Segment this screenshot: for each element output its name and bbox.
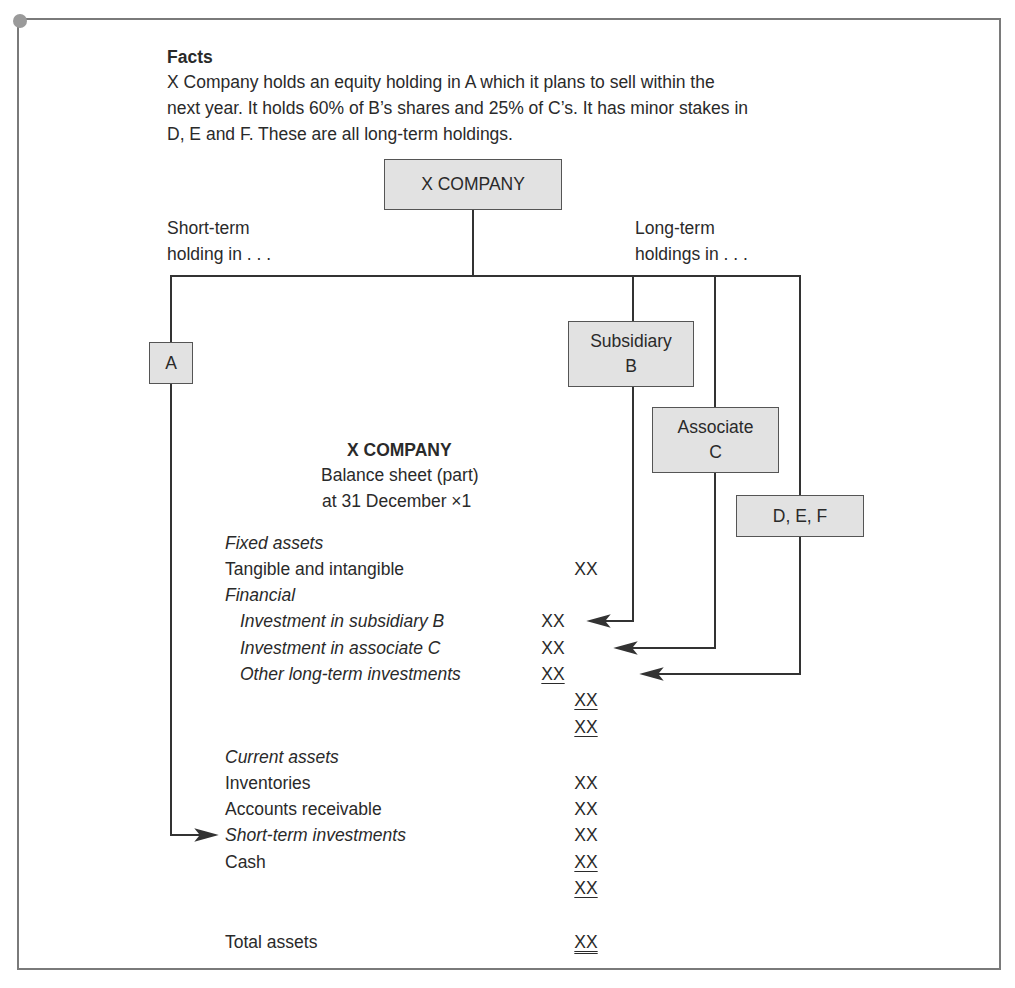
subsidiary-investment-value: XX	[540, 609, 566, 634]
subsidiary-investment-label: Investment in subsidiary B	[240, 609, 444, 634]
arrow-layer	[0, 0, 1015, 988]
subsidiary-b-node: Subsidiary B	[568, 321, 694, 387]
tangible-value: XX	[573, 557, 599, 582]
receivable-label: Accounts receivable	[225, 797, 382, 822]
associate-c-label-line-2: C	[709, 440, 722, 465]
fixed-total-value: XX	[573, 715, 599, 740]
inventories-label: Inventories	[225, 771, 311, 796]
receivable-value: XX	[573, 797, 599, 822]
cash-label: Cash	[225, 850, 266, 875]
fixed-assets-heading: Fixed assets	[225, 531, 323, 556]
associate-investment-value: XX	[540, 636, 566, 661]
financial-total-value: XX	[573, 688, 599, 713]
cash-value: XX	[573, 850, 599, 875]
other-investments-label: Other long-term investments	[240, 662, 461, 687]
a-node-label: A	[165, 351, 177, 376]
tangible-label: Tangible and intangible	[225, 557, 404, 582]
balance-sheet-title: X COMPANY	[347, 438, 452, 463]
total-assets-value: XX	[573, 930, 599, 955]
current-total-value: XX	[573, 876, 599, 901]
associate-investment-label: Investment in associate C	[240, 636, 440, 661]
other-investments-value: XX	[540, 662, 566, 687]
short-term-investments-value: XX	[573, 823, 599, 848]
balance-sheet-subtitle: Balance sheet (part)	[321, 463, 479, 488]
associate-c-node: Associate C	[652, 407, 779, 473]
a-node: A	[149, 342, 193, 384]
inventories-value: XX	[573, 771, 599, 796]
subsidiary-b-label-line-1: Subsidiary	[590, 329, 672, 354]
def-node: D, E, F	[736, 495, 864, 537]
total-assets-label: Total assets	[225, 930, 317, 955]
balance-sheet-date: at 31 December ×1	[322, 489, 471, 514]
def-node-label: D, E, F	[773, 504, 827, 529]
short-term-investments-label: Short-term investments	[225, 823, 406, 848]
subsidiary-b-label-line-2: B	[625, 354, 637, 379]
current-assets-heading: Current assets	[225, 745, 339, 770]
associate-c-label-line-1: Associate	[678, 415, 754, 440]
financial-heading: Financial	[225, 583, 295, 608]
